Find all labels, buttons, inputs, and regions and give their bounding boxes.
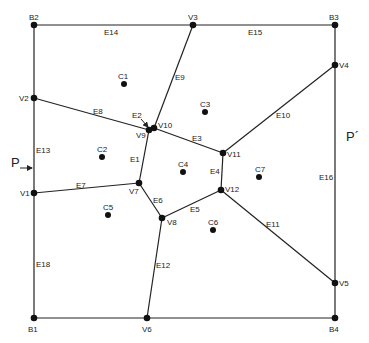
vertex-label-v2: V2 — [19, 94, 29, 103]
cell-center-c1 — [121, 81, 127, 87]
vertex-label-v3: V3 — [188, 13, 198, 22]
cell-label-c1: C1 — [118, 72, 129, 81]
voronoi-diagram: E1E2E3E4E5E6E7E8E9E10E11E12E13E14E15E16E… — [0, 0, 369, 343]
annotation-p-prime: P´ — [346, 129, 359, 144]
vertex-label-v5: V5 — [339, 279, 349, 288]
edge-label-e1: E1 — [130, 155, 140, 164]
vertex-v8 — [159, 215, 166, 222]
edge-label-e8: E8 — [93, 107, 103, 116]
edge-label-e12: E12 — [156, 261, 171, 270]
cell-center-c3 — [202, 109, 208, 115]
cell-center-c7 — [256, 174, 262, 180]
vertex-b3 — [332, 22, 339, 29]
cell-center-c5 — [105, 212, 111, 218]
edge-label-e4: E4 — [210, 167, 220, 176]
vertex-b1 — [31, 315, 38, 322]
edge-label-e5: E5 — [190, 205, 200, 214]
edge-e10 — [223, 65, 335, 153]
edge-e4 — [221, 153, 223, 190]
vertex-v10 — [151, 125, 158, 132]
edge-label-e9: E9 — [175, 73, 185, 82]
vertex-label-v10: V10 — [158, 121, 173, 130]
vertex-v12 — [218, 187, 225, 194]
cell-center-c2 — [99, 154, 105, 160]
vertex-v7 — [136, 180, 143, 187]
vertex-label-b3: B3 — [329, 13, 339, 22]
vertex-v5 — [332, 280, 339, 287]
e2-pointer-arrow — [141, 119, 148, 127]
edge-label-e14: E14 — [104, 28, 119, 37]
edge-label-e2: E2 — [132, 111, 142, 120]
vertex-label-v8: V8 — [167, 218, 177, 227]
vertex-label-b4: B4 — [329, 325, 339, 334]
cell-label-c4: C4 — [178, 160, 189, 169]
edge-label-e15: E15 — [248, 28, 263, 37]
cell-label-c5: C5 — [103, 203, 114, 212]
edge-e7 — [34, 183, 139, 193]
cell-label-c6: C6 — [208, 218, 219, 227]
edge-e11 — [221, 190, 335, 283]
edge-label-e10: E10 — [276, 111, 291, 120]
edge-label-e16: E16 — [319, 173, 334, 182]
cell-label-c7: C7 — [255, 165, 266, 174]
vertex-b2 — [31, 22, 38, 29]
edge-label-e11: E11 — [266, 220, 280, 229]
vertex-v3 — [190, 22, 197, 29]
cell-label-c3: C3 — [200, 100, 211, 109]
vertex-label-b1: B1 — [28, 325, 38, 334]
edge-e3 — [154, 128, 223, 153]
vertex-v11 — [220, 150, 227, 157]
edge-label-e13: E13 — [36, 146, 51, 155]
vertex-b4 — [332, 315, 339, 322]
vertex-v1 — [31, 190, 38, 197]
vertex-label-v9: V9 — [136, 131, 146, 140]
annotation-arrows — [20, 119, 148, 168]
cell-label-c2: C2 — [97, 145, 108, 154]
vertex-label-v7: V7 — [129, 187, 139, 196]
edge-e9 — [154, 25, 193, 128]
vertex-v2 — [31, 95, 38, 102]
cell-center-c6 — [210, 227, 216, 233]
edge-label-e18: E18 — [36, 260, 51, 269]
vertex-v4 — [332, 62, 339, 69]
vertex-label-v6: V6 — [142, 325, 152, 334]
vertex-label-v11: V11 — [227, 150, 241, 159]
edge-label-e6: E6 — [153, 196, 163, 205]
cell-center-c4 — [180, 169, 186, 175]
vertex-label-v4: V4 — [339, 61, 349, 70]
edge-label-e3: E3 — [192, 134, 202, 143]
vertex-label-v12: V12 — [225, 185, 240, 194]
annotation-p: P — [11, 155, 20, 170]
vertex-v6 — [144, 315, 151, 322]
vertex-label-b2: B2 — [29, 13, 39, 22]
vertex-label-v1: V1 — [20, 189, 30, 198]
edge-label-e7: E7 — [76, 181, 86, 190]
